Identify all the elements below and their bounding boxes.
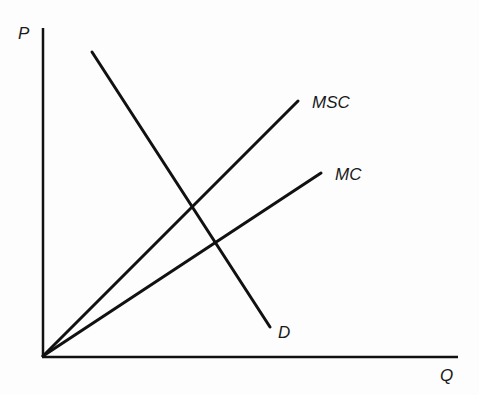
diagram-svg <box>0 0 479 395</box>
diagram-canvas: P Q MSC MC D <box>0 0 479 395</box>
y-axis-label: P <box>18 25 29 42</box>
mc-label: MC <box>335 166 361 183</box>
msc-curve <box>43 101 298 356</box>
demand-curve <box>92 52 270 327</box>
msc-label: MSC <box>312 94 350 111</box>
x-axis-label: Q <box>440 367 453 384</box>
demand-label: D <box>278 324 290 341</box>
